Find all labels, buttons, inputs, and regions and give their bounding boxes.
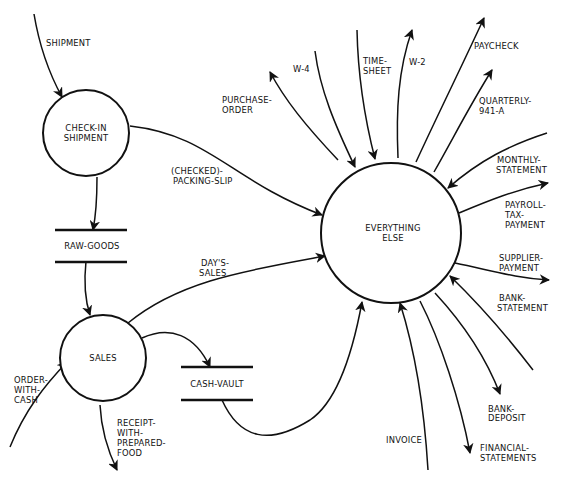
store-raw-goods[interactable]: RAW-GOODS	[55, 230, 127, 262]
flow-cashvault-to-everything	[222, 302, 362, 435]
flow-purchase-order	[270, 72, 338, 160]
flow-label-paycheck: PAYCHECK	[474, 41, 519, 51]
flow-label-financial-statements: FINANCIAL-STATEMENTS	[480, 443, 536, 463]
flow-label-receipt: RECEIPT-WITH-PREPARED-FOOD	[117, 418, 166, 458]
flow-bank-deposit	[435, 293, 500, 394]
flow-timesheet	[357, 30, 375, 159]
flow-label-quarterly: QUARTERLY-941-A	[479, 96, 532, 116]
flow-label-monthly-statement: MONTHLY-STATEMENT	[496, 155, 548, 175]
flow-quarterly	[434, 70, 492, 172]
flow-shipment	[34, 14, 62, 97]
process-label: SALES	[89, 353, 116, 363]
flow-label-days-sales: DAY'S-SALES	[199, 258, 229, 278]
process-label: CHECK-IN	[65, 123, 106, 133]
flow-w4	[315, 51, 355, 167]
flow-checkin-to-rawgoods	[93, 177, 97, 230]
process-label: EVERYTHING	[365, 223, 420, 233]
flow-sales-to-cashvault	[142, 332, 210, 367]
flow-label-packing-slip: (CHECKED)-PACKING-SLIP	[171, 166, 233, 186]
flow-label-w4: W-4	[293, 64, 310, 74]
flow-label-purchase-order: PURCHASE-ORDER	[222, 95, 272, 115]
flow-financial-statements	[420, 301, 470, 453]
store-label: CASH-VAULT	[190, 379, 244, 389]
flow-bank-statement	[450, 276, 533, 370]
svg-text:CHECK-INSHIPMENT: CHECK-INSHIPMENT	[64, 123, 109, 143]
process-everything-else[interactable]: EVERYTHINGELSE	[321, 163, 461, 303]
flow-rawgoods-to-sales	[85, 261, 90, 315]
flow-w2	[397, 30, 412, 158]
flow-label-bank-statement: BANK-STATEMENT	[497, 293, 549, 313]
flow-label-shipment: SHIPMENT	[46, 38, 91, 48]
flow-label-bank-deposit: BANK-DEPOSIT	[488, 404, 526, 423]
flow-paycheck	[416, 18, 484, 162]
process-checkin-shipment[interactable]: CHECK-INSHIPMENT	[43, 90, 129, 176]
flow-label-payroll-tax: PAYROLL-TAX-PAYMENT	[504, 200, 546, 230]
flow-label-timesheet: TIME-SHEET	[362, 56, 392, 76]
data-flow-diagram: CHECK-INSHIPMENT SALES EVERYTHINGELSE RA…	[0, 0, 562, 486]
store-cash-vault[interactable]: CASH-VAULT	[181, 367, 253, 400]
process-label: SHIPMENT	[64, 133, 109, 143]
store-label: RAW-GOODS	[64, 241, 119, 251]
flow-label-invoice: INVOICE	[386, 435, 422, 445]
process-label: ELSE	[382, 233, 403, 243]
process-sales[interactable]: SALES	[60, 315, 146, 401]
flow-receipt	[100, 405, 117, 470]
flow-label-supplier-payment: SUPPLIER-PAYMENT	[499, 253, 543, 273]
svg-text:SALES: SALES	[89, 353, 116, 363]
flow-label-w2: W-2	[409, 57, 426, 67]
flow-packing-slip	[130, 126, 322, 215]
